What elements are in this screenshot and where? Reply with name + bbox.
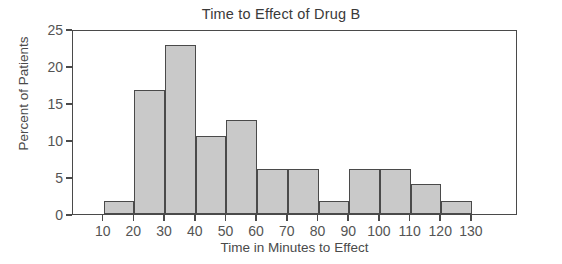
bars-layer (73, 31, 516, 214)
x-tick-mark (409, 215, 411, 221)
x-tick-label: 120 (429, 223, 452, 240)
histogram-bar (196, 136, 227, 214)
x-tick-mark (225, 215, 227, 221)
x-tick-label: 20 (126, 223, 142, 240)
x-axis-title: Time in Minutes to Effect (72, 240, 517, 255)
x-tick-mark (163, 215, 165, 221)
chart-title: Time to Effect of Drug B (0, 6, 562, 22)
x-tick-label: 30 (156, 223, 172, 240)
x-tick-label: 70 (279, 223, 295, 240)
x-tick-mark (255, 215, 257, 221)
histogram-bar (257, 169, 288, 214)
histogram-bar (380, 169, 411, 214)
histogram-bar (288, 169, 319, 214)
y-tick-label: 0 (55, 206, 63, 224)
x-tick-mark (133, 215, 135, 221)
x-tick-mark (347, 215, 349, 221)
histogram-bar (319, 201, 350, 214)
histogram-figure: Time to Effect of Drug B Percent of Pati… (0, 0, 562, 264)
x-tick-label: 40 (187, 223, 203, 240)
y-axis: 0510152025 (0, 30, 72, 215)
x-tick-mark (470, 215, 472, 221)
x-tick-mark (378, 215, 380, 221)
x-tick-label: 110 (398, 223, 420, 240)
y-tick-label: 5 (55, 169, 63, 187)
x-tick-mark (317, 215, 319, 221)
x-tick-label: 90 (340, 223, 356, 240)
histogram-bar (226, 120, 257, 214)
x-tick-label: 130 (459, 223, 482, 240)
histogram-bar (165, 45, 196, 214)
plot-area (72, 30, 517, 215)
x-tick-label: 80 (310, 223, 326, 240)
histogram-bar (349, 169, 380, 214)
histogram-bar (441, 201, 472, 214)
y-tick-label: 10 (47, 132, 63, 150)
histogram-bar (134, 90, 165, 214)
x-tick-mark (102, 215, 104, 221)
x-tick-mark (286, 215, 288, 221)
x-tick-label: 50 (218, 223, 234, 240)
x-tick-mark (439, 215, 441, 221)
histogram-bar (104, 201, 135, 214)
x-tick-label: 60 (248, 223, 264, 240)
x-tick-label: 10 (95, 223, 111, 240)
x-tick-label: 100 (367, 223, 390, 240)
x-tick-mark (194, 215, 196, 221)
y-tick-label: 20 (47, 58, 63, 76)
y-tick-label: 15 (47, 95, 63, 113)
histogram-bar (411, 184, 442, 214)
y-tick-label: 25 (47, 21, 63, 39)
